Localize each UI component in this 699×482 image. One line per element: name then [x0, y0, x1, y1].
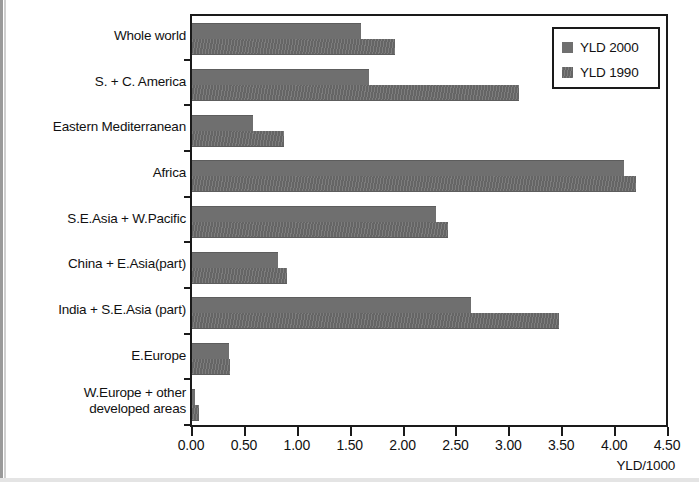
x-axis-tick [350, 427, 352, 436]
bar-yld-2000 [192, 69, 369, 85]
x-axis-tick [561, 427, 563, 436]
x-axis-tick [508, 427, 510, 436]
legend-swatch-yld-1990-icon [562, 67, 573, 78]
legend-label: YLD 2000 [580, 40, 638, 55]
x-axis-tick-label: 4.50 [654, 437, 680, 453]
bar-yld-1990 [192, 268, 287, 284]
x-axis-tick-label: 1.00 [284, 437, 310, 453]
bar-yld-2000 [192, 389, 195, 405]
bar-yld-1990 [192, 222, 448, 238]
chart-figure: Whole worldS. + C. AmericaEastern Medite… [0, 0, 699, 482]
x-axis-tick-label: 2.50 [442, 437, 468, 453]
x-axis-tick [191, 427, 193, 436]
legend-label: YLD 1990 [580, 65, 638, 80]
legend-item: YLD 1990 [562, 60, 658, 85]
x-axis-tick-label: 4.00 [601, 437, 627, 453]
x-axis-tick-label: 1.50 [336, 437, 362, 453]
x-axis-tick [614, 427, 616, 436]
x-axis-tick [403, 427, 405, 436]
x-axis-tick [455, 427, 457, 436]
scan-edge-artifact [0, 478, 699, 482]
bar-yld-1990 [192, 85, 519, 101]
bar-yld-2000 [192, 160, 624, 176]
x-axis-ticks [190, 427, 668, 436]
chart-legend: YLD 2000YLD 1990 [552, 27, 660, 89]
bar-yld-1990 [192, 313, 559, 329]
x-axis-tick-label: 0.00 [178, 437, 204, 453]
x-axis-tick [244, 427, 246, 436]
bar-yld-2000 [192, 23, 361, 39]
legend-item: YLD 2000 [562, 35, 658, 60]
bar-yld-2000 [192, 252, 278, 268]
x-axis-title: YLD/1000 [617, 458, 675, 473]
bar-yld-2000 [192, 297, 471, 313]
x-axis-tick-label: 3.50 [548, 437, 574, 453]
bar-yld-2000 [192, 115, 253, 131]
bar-yld-2000 [192, 343, 229, 359]
bar-yld-1990 [192, 131, 284, 147]
x-axis-tick-labels: 0.000.501.001.502.002.503.003.504.004.50 [190, 437, 668, 457]
x-axis-tick [667, 427, 669, 436]
y-axis-ticks [0, 14, 191, 427]
x-axis-tick-label: 3.00 [495, 437, 521, 453]
x-axis-tick [297, 427, 299, 436]
bar-yld-1990 [192, 359, 230, 375]
bar-yld-1990 [192, 405, 199, 421]
bar-yld-2000 [192, 206, 436, 222]
bar-yld-1990 [192, 176, 636, 192]
x-axis-tick-label: 0.50 [231, 437, 257, 453]
bar-yld-1990 [192, 39, 395, 55]
legend-swatch-yld-2000-icon [562, 42, 573, 53]
x-axis-tick-label: 2.00 [389, 437, 415, 453]
